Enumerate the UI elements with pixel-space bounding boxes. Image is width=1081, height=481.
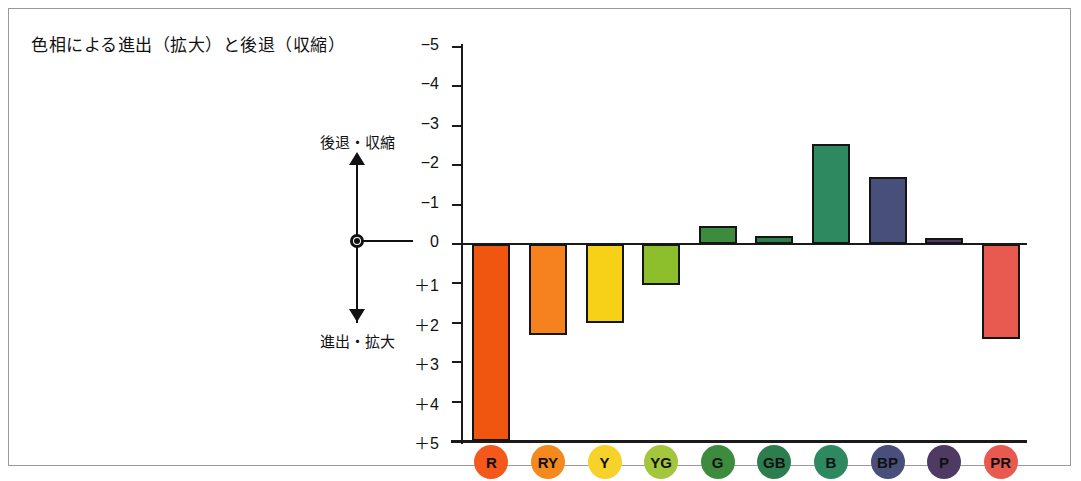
y-tick — [452, 322, 463, 324]
legend-chip-g[interactable]: G — [701, 445, 735, 479]
direction-label-top: 後退・収縮 — [297, 131, 417, 152]
arrow-up-icon — [349, 152, 365, 165]
y-tick — [452, 46, 463, 48]
y-tick-label: −2 — [379, 154, 439, 172]
bar-ry — [529, 244, 567, 335]
legend-chip-b[interactable]: B — [814, 445, 848, 479]
legend-chip-gb[interactable]: GB — [757, 445, 791, 479]
y-tick-label: −5 — [379, 36, 439, 54]
axis-bottom-rule — [451, 440, 1027, 443]
y-tick-label: ＋2 — [379, 312, 439, 336]
y-tick-label: ＋4 — [379, 391, 439, 415]
y-tick-label: ＋5 — [379, 430, 439, 454]
plot-area: −5−4−3−2−10＋1＋2＋3＋4＋5 — [461, 47, 1027, 441]
y-tick — [452, 85, 463, 87]
y-tick-label: −1 — [379, 194, 439, 212]
bar-b — [812, 144, 850, 244]
y-tick-label: ＋1 — [379, 272, 439, 296]
y-tick — [452, 361, 463, 363]
y-tick-label: −3 — [379, 115, 439, 133]
y-tick-label: ＋3 — [379, 351, 439, 375]
bar-bp — [869, 177, 907, 244]
legend-chip-y[interactable]: Y — [588, 445, 622, 479]
origin-dot-center-icon — [354, 238, 360, 244]
bar-r — [472, 244, 510, 441]
y-tick — [452, 282, 463, 284]
chart-frame: 色相による進出（拡大）と後退（収縮） 後退・収縮 進出・拡大 −5−4−3−2−… — [8, 8, 1071, 466]
legend-chip-p[interactable]: P — [927, 445, 961, 479]
bar-pr — [982, 244, 1020, 339]
y-tick — [452, 401, 463, 403]
legend-chip-pr[interactable]: PR — [984, 445, 1018, 479]
bar-g — [699, 226, 737, 244]
page-title: 色相による進出（拡大）と後退（収縮） — [31, 31, 345, 56]
y-tick-label: −4 — [379, 75, 439, 93]
y-tick — [452, 204, 463, 206]
y-tick — [452, 125, 463, 127]
bar-p — [925, 238, 963, 244]
legend-chip-bp[interactable]: BP — [871, 445, 905, 479]
legend-chip-yg[interactable]: YG — [644, 445, 678, 479]
bar-y — [586, 244, 624, 323]
legend: RRYYYGGGBBBPPPR — [461, 445, 1027, 481]
bar-yg — [642, 244, 680, 285]
legend-chip-r[interactable]: R — [474, 445, 508, 479]
y-tick — [452, 164, 463, 166]
legend-chip-ry[interactable]: RY — [531, 445, 565, 479]
y-tick-label: 0 — [379, 233, 439, 251]
arrow-down-icon — [349, 309, 365, 322]
bar-gb — [755, 236, 793, 244]
